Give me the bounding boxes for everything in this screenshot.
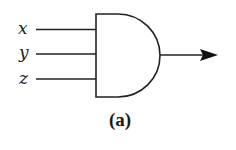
input-label-z: z [18,68,29,88]
input-label-y: y [18,42,29,62]
diagram-caption: (a) [109,109,131,131]
and-gate-body [96,14,160,97]
and-gate-diagram: x y z (a) [0,0,236,150]
input-label-x: x [18,18,28,38]
